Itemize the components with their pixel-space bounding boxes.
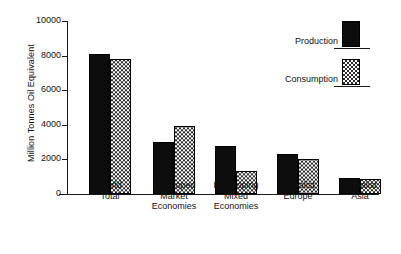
x-axis-label: SocialistAsia bbox=[317, 180, 401, 201]
bar-group bbox=[89, 21, 131, 194]
legend-label-consumption: Consumption bbox=[285, 74, 338, 84]
legend-swatch-consumption bbox=[342, 59, 360, 85]
bar-group bbox=[153, 21, 195, 194]
bar-chart-figure: Million Tonnes Oil Equivalent 0200040006… bbox=[0, 0, 401, 254]
bar-production bbox=[89, 54, 110, 194]
legend-swatch-production bbox=[342, 21, 360, 47]
x-axis-label-line: Asia bbox=[317, 191, 401, 202]
y-axis-tick-label: 10000 bbox=[21, 16, 61, 25]
y-axis-tick bbox=[62, 21, 67, 22]
bar-consumption bbox=[110, 59, 131, 194]
legend-item-production: Production bbox=[246, 18, 386, 50]
legend-label-production: Production bbox=[295, 36, 338, 46]
legend-item-consumption: Consumption bbox=[246, 56, 386, 88]
y-axis-tick bbox=[62, 56, 67, 57]
chart-legend: Production Consumption bbox=[246, 18, 386, 90]
y-axis-tick-label: 0 bbox=[21, 189, 61, 198]
y-axis-tick-label: 6000 bbox=[21, 85, 61, 94]
legend-baseline-production bbox=[334, 48, 370, 49]
y-axis-tick-label: 2000 bbox=[21, 154, 61, 163]
y-axis-tick-label: 8000 bbox=[21, 51, 61, 60]
x-axis-label-line: Socialist bbox=[317, 180, 401, 191]
y-axis-tick bbox=[62, 125, 67, 126]
legend-baseline-consumption bbox=[334, 86, 370, 87]
y-axis-tick bbox=[62, 159, 67, 160]
y-axis-line bbox=[67, 21, 68, 194]
y-axis-tick-label: 4000 bbox=[21, 120, 61, 129]
y-axis-tick bbox=[62, 90, 67, 91]
x-axis-label-line: Economies bbox=[193, 201, 279, 212]
